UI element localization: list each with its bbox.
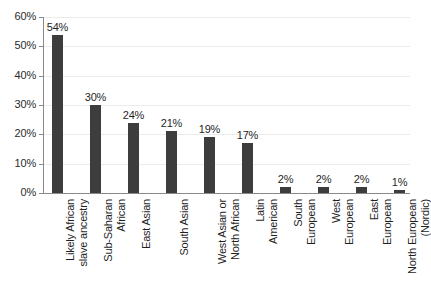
y-tick-60: [39, 17, 43, 18]
gridline-0: [44, 193, 410, 194]
bar-value-label: 2%: [304, 174, 344, 185]
y-tick-10: [39, 164, 43, 165]
bar: [204, 137, 215, 193]
bar-value-label: 21%: [152, 118, 192, 129]
bar-value-label: 17%: [228, 130, 268, 141]
bar-value-label: 54%: [38, 22, 78, 33]
y-tick-50: [39, 46, 43, 47]
bar: [90, 105, 101, 193]
bar: [318, 187, 329, 193]
y-tick-label-30pct: 30%: [0, 99, 36, 110]
y-tick-label-50pct: 50%: [0, 40, 36, 51]
y-tick-20: [39, 134, 43, 135]
x-category-label: West Asian or North African: [216, 199, 241, 295]
bar: [280, 187, 291, 193]
bar-value-label: 19%: [190, 124, 230, 135]
gridline-60: [44, 17, 410, 18]
y-tick-label-10pct: 10%: [0, 158, 36, 169]
x-category-label: South European: [292, 199, 317, 295]
y-tick-30: [39, 105, 43, 106]
x-category-label: Sub-Saharan African: [102, 199, 127, 295]
bar: [166, 131, 177, 193]
y-tick-label-20pct: 20%: [0, 128, 36, 139]
y-tick-0: [39, 193, 43, 194]
bar-value-label: 24%: [114, 110, 154, 121]
bar-value-label: 1%: [380, 177, 420, 188]
gridline-40: [44, 76, 410, 77]
bar-value-label: 30%: [76, 92, 116, 103]
y-tick-40: [39, 76, 43, 77]
x-category-label: North European (Nordic): [406, 199, 431, 295]
bar-value-label: 2%: [266, 174, 306, 185]
y-tick-label-0pct: 0%: [0, 187, 36, 198]
x-category-label: East European: [368, 199, 393, 295]
x-category-label: East Asian: [140, 199, 153, 295]
x-category-label: West European: [330, 199, 355, 295]
bar-value-label: 2%: [342, 174, 382, 185]
plot-area: [44, 17, 410, 193]
bar: [356, 187, 367, 193]
y-tick-label-40pct: 40%: [0, 70, 36, 81]
x-category-label: Latin American: [254, 199, 279, 295]
x-category-label: South Asian: [178, 199, 191, 295]
bar: [52, 35, 63, 193]
gridline-50: [44, 46, 410, 47]
x-category-label: Likely African slave ancestry: [64, 199, 89, 295]
bar: [128, 123, 139, 193]
bar: [394, 190, 405, 193]
y-tick-label-60pct: 60%: [0, 11, 36, 22]
bar: [242, 143, 253, 193]
